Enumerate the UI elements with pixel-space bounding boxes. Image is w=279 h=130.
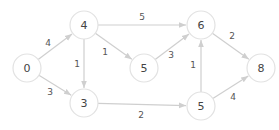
node-n6: 6 — [187, 11, 215, 39]
node-n0: 0 — [13, 54, 41, 82]
edge-weight-label: 3 — [47, 87, 53, 97]
edge-weight-label: 1 — [102, 47, 108, 57]
edge-weight-label: 2 — [229, 31, 235, 41]
node-n5a: 5 — [130, 54, 158, 82]
node-n3: 3 — [70, 89, 98, 117]
edge-4-to-5 — [95, 33, 131, 59]
edge-weight-label: 5 — [139, 12, 145, 22]
node-label: 6 — [198, 19, 205, 32]
node-label: 4 — [81, 19, 88, 32]
graph-diagram: 4311532124 0435658 — [0, 0, 279, 130]
edge-weight-label: 2 — [138, 110, 144, 120]
edge-weight-label: 1 — [190, 60, 196, 70]
edge-weight-label: 4 — [45, 38, 51, 48]
node-n5b: 5 — [187, 92, 215, 120]
node-label: 8 — [258, 62, 265, 75]
node-n4: 4 — [70, 11, 98, 39]
edge-0-to-3 — [39, 75, 71, 95]
edge-0-to-4 — [38, 34, 72, 60]
nodes-layer: 0435658 — [13, 11, 275, 120]
edge-weight-label: 1 — [74, 59, 80, 69]
node-label: 0 — [24, 62, 31, 75]
node-label: 3 — [81, 97, 88, 110]
edge-3-to-5 — [98, 103, 186, 105]
node-label: 5 — [198, 100, 205, 113]
node-n8: 8 — [247, 54, 275, 82]
edge-weight-label: 3 — [168, 50, 174, 60]
edge-weight-label: 4 — [230, 92, 236, 102]
node-label: 5 — [141, 62, 148, 75]
